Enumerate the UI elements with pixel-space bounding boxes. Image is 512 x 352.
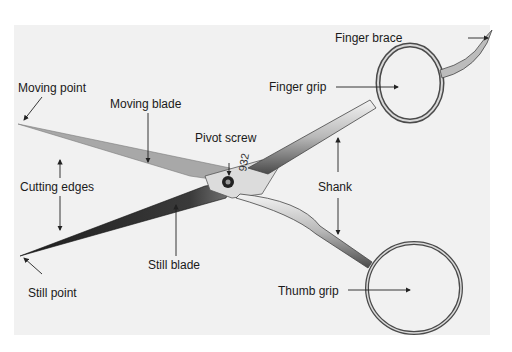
label-finger-grip: Finger grip (269, 80, 326, 94)
label-still-point: Still point (28, 286, 77, 300)
moving-point-arrow (24, 97, 42, 120)
label-finger-brace: Finger brace (335, 31, 402, 45)
still-point-arrow (24, 258, 42, 274)
upper-shank (248, 100, 376, 174)
label-shank: Shank (318, 180, 352, 194)
pivot-screw (222, 176, 234, 188)
label-moving-blade: Moving blade (110, 97, 181, 111)
finger-grip-ring (378, 45, 442, 121)
lower-shank (236, 194, 372, 268)
label-moving-point: Moving point (18, 81, 86, 95)
label-thumb-grip: Thumb grip (278, 284, 339, 298)
thumb-grip-ring (367, 243, 461, 333)
finger-brace (440, 30, 492, 78)
label-cutting-edges: Cutting edges (20, 180, 94, 194)
label-pivot-screw: Pivot screw (195, 131, 256, 145)
label-still-blade: Still blade (148, 258, 200, 272)
